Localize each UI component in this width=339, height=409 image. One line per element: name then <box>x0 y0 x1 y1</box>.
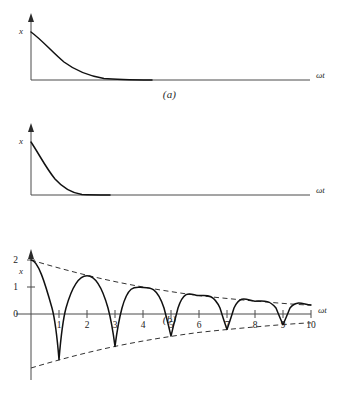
panel-b-decay-curve <box>31 142 110 195</box>
panel-b-y-axis-label: x <box>18 136 23 146</box>
panel-c-ylabel-1: 1 <box>13 282 18 292</box>
panel-c-xlabel-10: 10 <box>306 320 316 330</box>
panel-c-xlabel-8: 8 <box>253 320 258 330</box>
panel-c-ylabel-0: 0 <box>13 309 18 319</box>
panel-c-xlabel-1: 1 <box>57 320 62 330</box>
panel-c-upper-envelope <box>31 260 311 305</box>
panel-a-y-axis-arrowhead <box>28 13 34 22</box>
panel-c: 2 1 0 1 2 3 4 5 6 7 8 9 10 <box>0 225 339 409</box>
panel-c-xlabel-2: 2 <box>85 320 90 330</box>
panel-c-xlabel-3: 3 <box>113 320 118 330</box>
panel-c-oscillation-curve <box>31 260 311 360</box>
panel-b-y-axis-arrowhead <box>28 123 34 132</box>
panel-c-ylabel-2: 2 <box>13 255 18 265</box>
panel-a-caption: (a) <box>0 88 339 100</box>
panel-c-y-axis-label: x <box>18 266 23 276</box>
panel-c-x-axis-label: ωt <box>318 305 327 315</box>
panel-b: x ωt (b) <box>0 110 339 220</box>
panel-b-x-axis-label: ωt <box>316 185 325 195</box>
panel-a: x ωt (a) <box>0 0 339 110</box>
panel-c-xlabel-4: 4 <box>141 320 146 330</box>
panel-a-x-axis-label: ωt <box>316 70 325 80</box>
damped-oscillation-figure: x ωt (a) x ωt (b) 2 <box>0 0 339 409</box>
panel-c-y-axis-arrowhead <box>28 249 34 259</box>
panel-a-decay-curve <box>31 32 152 80</box>
panel-c-xlabel-6: 6 <box>197 320 202 330</box>
panel-a-y-axis-label: x <box>18 26 23 36</box>
